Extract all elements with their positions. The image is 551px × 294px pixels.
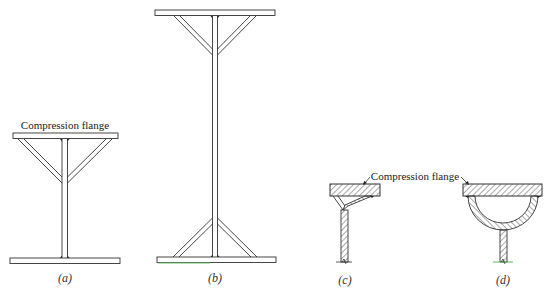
caption-d: (d) xyxy=(496,273,510,287)
flange-d xyxy=(463,184,542,196)
semicircle-stiffener-d xyxy=(468,196,538,230)
brace-bottom-right-b xyxy=(218,218,258,257)
bottom-flange-a xyxy=(10,258,120,264)
caption-b: (b) xyxy=(208,271,222,285)
panel-d: (d) xyxy=(463,184,542,287)
brace-top-right-b xyxy=(218,16,257,55)
figure-canvas: Compression flange (a) xyxy=(0,0,551,294)
bottom-flange-b xyxy=(157,257,276,263)
compression-flange-label-cd: Compression flange xyxy=(371,170,459,182)
panel-a: Compression flange (a) xyxy=(10,119,120,285)
compression-flange-callout: Compression flange xyxy=(363,170,469,185)
web-b xyxy=(213,16,218,257)
weld-a xyxy=(60,139,70,258)
brace-top-left-b xyxy=(174,16,213,55)
caption-c: (c) xyxy=(338,273,351,287)
weld-b xyxy=(211,16,220,257)
brace-left-a xyxy=(18,139,62,183)
web-a xyxy=(62,139,68,258)
brace-right-a xyxy=(68,139,113,183)
panel-c: (c) xyxy=(330,184,380,287)
top-flange-b xyxy=(155,10,275,16)
compression-flange-label-a: Compression flange xyxy=(21,119,109,131)
top-flange-a xyxy=(13,133,118,139)
web-c xyxy=(341,210,348,262)
panel-b: (b) xyxy=(155,10,276,285)
brace-bottom-left-b xyxy=(173,218,213,257)
flange-c xyxy=(330,184,380,196)
caption-a: (a) xyxy=(58,271,72,285)
stiffener-c xyxy=(333,196,374,210)
web-d xyxy=(500,230,507,262)
